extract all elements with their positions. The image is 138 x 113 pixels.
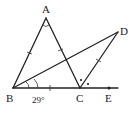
label-a: A: [42, 3, 50, 15]
label-b: B: [6, 92, 13, 104]
label-e: E: [105, 92, 112, 104]
angle-label-29: 29°: [32, 95, 45, 105]
angle-arc-a: [43, 25, 49, 27]
point-e-marker: [107, 86, 110, 89]
segment-ac: [46, 18, 80, 88]
angle-dot-dce: [87, 83, 89, 85]
angle-arc-b: [26, 82, 29, 88]
segment-cd: [80, 32, 118, 88]
segment-bd: [13, 32, 118, 88]
label-d: D: [120, 25, 128, 37]
angle-arc-b-outer: [34, 79, 38, 88]
geometry-diagram: A B C D E 29°: [0, 0, 138, 113]
angle-dot-acd: [80, 79, 82, 81]
label-c: C: [76, 92, 83, 104]
